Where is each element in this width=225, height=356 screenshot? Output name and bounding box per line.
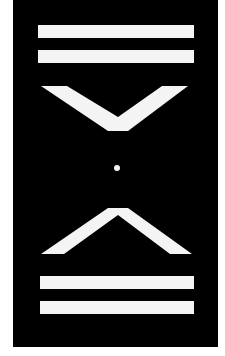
bottom-bar-1	[40, 276, 194, 289]
center-dot-icon	[114, 165, 120, 171]
bottom-bar-2	[40, 301, 194, 314]
chevron-up-icon	[41, 208, 192, 254]
chevron-down-icon	[41, 86, 188, 131]
